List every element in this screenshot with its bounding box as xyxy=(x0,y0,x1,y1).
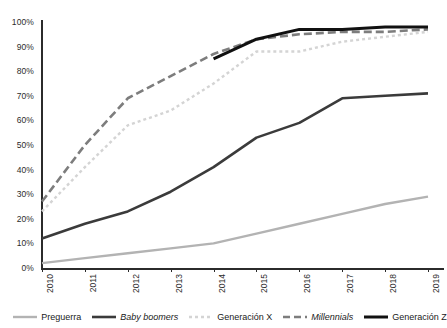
legend-swatch-icon xyxy=(283,312,307,322)
x-axis-line xyxy=(41,268,444,270)
y-axis-tick-label: 80% xyxy=(0,67,34,76)
legend-item[interactable]: Millennials xyxy=(283,312,353,322)
x-axis-tick-label: 2015 xyxy=(260,274,269,293)
legend-item[interactable]: Generación X xyxy=(189,312,272,322)
legend-swatch-icon xyxy=(364,312,388,322)
x-axis-tick-mark xyxy=(128,268,129,272)
x-axis-tick-label: 2019 xyxy=(432,274,441,293)
x-axis-tick-mark xyxy=(299,268,300,272)
x-axis-tick-label: 2013 xyxy=(175,274,184,293)
plot-area xyxy=(42,22,442,268)
legend-swatch-icon xyxy=(189,312,213,322)
legend-label: Millennials xyxy=(311,313,353,322)
legend-item[interactable]: Preguerra xyxy=(13,312,81,322)
x-axis-tick-mark xyxy=(385,268,386,272)
x-axis-tick-label: 2017 xyxy=(346,274,355,293)
legend-label: Baby boomers xyxy=(120,313,178,322)
x-axis-tick-label: 2012 xyxy=(132,274,141,293)
legend-label: Generación Z xyxy=(392,313,447,322)
series-line xyxy=(42,93,428,238)
y-axis-tick-label: 70% xyxy=(0,92,34,101)
series-line xyxy=(42,32,428,212)
y-axis-tick-label: 30% xyxy=(0,190,34,199)
legend-swatch-icon xyxy=(13,312,37,322)
y-axis-tick-label: 50% xyxy=(0,141,34,150)
y-axis-tick-label: 90% xyxy=(0,43,34,52)
series-line xyxy=(42,197,428,263)
legend-label: Generación X xyxy=(217,313,272,322)
x-axis-tick-label: 2010 xyxy=(46,274,55,293)
x-axis-tick-mark xyxy=(85,268,86,272)
y-axis-tick-label: 20% xyxy=(0,215,34,224)
y-axis-tick-label: 100% xyxy=(0,18,34,27)
chart-legend: PreguerraBaby boomersGeneración XMillenn… xyxy=(30,312,430,322)
y-axis-tick-label: 60% xyxy=(0,116,34,125)
x-axis-tick-label: 2018 xyxy=(389,274,398,293)
x-axis-tick-mark xyxy=(42,268,43,272)
series-line xyxy=(214,27,428,59)
y-axis-tick-label: 40% xyxy=(0,166,34,175)
y-axis-tick-label: 10% xyxy=(0,239,34,248)
series-lines xyxy=(42,22,442,268)
x-axis-tick-label: 2011 xyxy=(89,274,98,292)
x-axis-tick-label: 2014 xyxy=(218,274,227,293)
x-axis-tick-mark xyxy=(214,268,215,272)
y-axis-tick-label: 0% xyxy=(0,264,34,273)
x-axis-tick-mark xyxy=(256,268,257,272)
x-axis-tick-mark xyxy=(342,268,343,272)
line-chart: 0%10%20%30%40%50%60%70%80%90%100% 201020… xyxy=(0,0,447,328)
x-axis-tick-mark xyxy=(171,268,172,272)
x-axis-tick-label: 2016 xyxy=(303,274,312,293)
legend-item[interactable]: Baby boomers xyxy=(92,312,178,322)
legend-swatch-icon xyxy=(92,312,116,322)
x-axis-tick-mark xyxy=(428,268,429,272)
legend-label: Preguerra xyxy=(41,313,81,322)
series-line xyxy=(42,29,428,201)
legend-item[interactable]: Generación Z xyxy=(364,312,447,322)
